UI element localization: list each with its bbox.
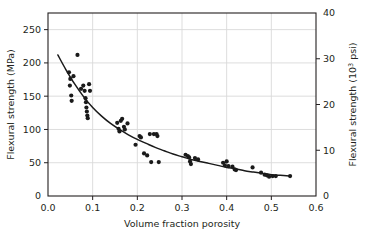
data-point (145, 153, 149, 157)
data-point (84, 105, 88, 109)
data-point (81, 83, 85, 87)
data-point (115, 121, 119, 125)
data-point (68, 83, 72, 87)
y-axis-title-right: Flexural strength (103 psi) (347, 42, 358, 166)
data-point (267, 175, 271, 179)
ytick-label-right: 40 (323, 7, 335, 18)
data-point (88, 89, 92, 93)
y-axis-title-left: Flexural strength (MPa) (5, 49, 16, 160)
data-point (148, 132, 152, 136)
data-point (226, 164, 230, 168)
data-point (83, 96, 87, 100)
data-point (288, 174, 292, 178)
data-point (125, 121, 129, 125)
data-point (86, 116, 90, 120)
data-point (120, 117, 124, 121)
xtick-label: 0.0 (40, 202, 55, 213)
xtick-label: 0.2 (130, 202, 145, 213)
ytick-label-right: 10 (323, 145, 335, 156)
ytick-label-left: 200 (23, 57, 41, 68)
data-point (155, 134, 159, 138)
xtick-label: 0.3 (174, 202, 189, 213)
data-point (67, 70, 71, 74)
data-point (75, 53, 79, 57)
data-point (223, 163, 227, 167)
data-point (234, 168, 238, 172)
xtick-label: 0.1 (85, 202, 100, 213)
data-point (117, 129, 121, 133)
ytick-label-left: 250 (23, 24, 41, 35)
ytick-label-right: 0 (323, 190, 329, 201)
data-point (87, 82, 91, 86)
ytick-label-right: 20 (323, 99, 335, 110)
x-axis-title: Volume fraction porosity (124, 218, 241, 229)
scatter-plot: 0501001502002500102030400.00.10.20.30.40… (0, 0, 370, 243)
data-point (70, 99, 74, 103)
data-point (84, 100, 88, 104)
data-point (250, 165, 254, 169)
ytick-label-left: 150 (23, 91, 41, 102)
data-point (85, 109, 89, 113)
data-point (157, 160, 161, 164)
ytick-label-left: 50 (29, 157, 41, 168)
xtick-label: 0.6 (308, 202, 323, 213)
ytick-label-right: 30 (323, 53, 335, 64)
data-point (274, 174, 278, 178)
data-point (69, 93, 73, 97)
ytick-label-left: 100 (23, 124, 41, 135)
data-point (225, 159, 229, 163)
data-point (71, 74, 75, 78)
figure-flexural-strength-vs-porosity: 0501001502002500102030400.00.10.20.30.40… (0, 0, 370, 243)
data-point (123, 127, 127, 131)
data-point (139, 135, 143, 139)
data-point (259, 171, 263, 175)
data-point (196, 157, 200, 161)
data-point (187, 155, 191, 159)
data-point (149, 160, 153, 164)
xtick-label: 0.4 (219, 202, 234, 213)
data-point (83, 89, 87, 93)
xtick-label: 0.5 (264, 202, 279, 213)
data-point (133, 143, 137, 147)
ytick-label-left: 0 (35, 190, 41, 201)
data-point (189, 162, 193, 166)
